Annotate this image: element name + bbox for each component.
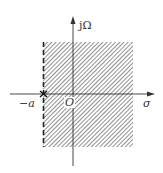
region-of-convergence (43, 42, 133, 147)
sigma-axis-arrow-icon (147, 92, 155, 97)
sigma-axis-label: σ (143, 98, 151, 109)
jomega-axis-arrow-icon (71, 16, 76, 24)
origin-label: O (64, 97, 75, 108)
jomega-axis-label: jΩ (79, 20, 92, 31)
pole-label: −a (19, 98, 35, 109)
